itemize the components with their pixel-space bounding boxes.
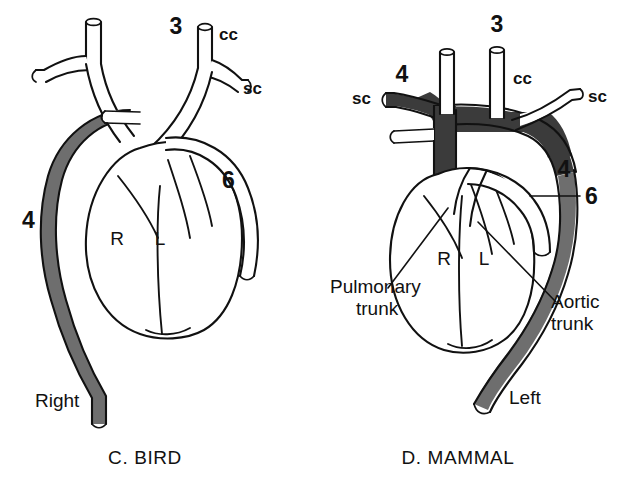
mammal-label-side: Left: [509, 387, 541, 408]
mammal-label-arch-6: 6: [585, 183, 598, 209]
mammal-chamber-left: L: [479, 248, 490, 269]
mammal-chamber-right: R: [437, 248, 451, 269]
mammal-label-arch-4-left: 4: [396, 61, 409, 87]
bird-label-arch-4: 4: [22, 207, 35, 233]
mammal-stub-vessel: [390, 128, 434, 143]
bird-label-cc: cc: [219, 25, 238, 44]
bird-chamber-left: L: [155, 228, 166, 249]
bird-panel-caption: C. BIRD: [108, 447, 182, 468]
mammal-label-sc-right: sc: [588, 87, 607, 106]
bird-label-arch-3: 3: [170, 13, 183, 39]
mammal-label-arch-4-right: 4: [558, 156, 571, 182]
mammal-label-pulmonary-trunk-line2: trunk: [356, 298, 399, 319]
bird-label-side: Right: [35, 390, 80, 411]
bird-chamber-right: R: [110, 228, 124, 249]
mammal-label-arch-3: 3: [491, 11, 504, 37]
mammal-label-aortic-trunk-line1: Aortic: [551, 291, 600, 312]
mammal-label-sc-left: sc: [352, 89, 371, 108]
mammal-label-aortic-trunk-line2: trunk: [551, 313, 594, 334]
bird-stub-vessel: [101, 110, 140, 124]
mammal-label-pulmonary-trunk-line1: Pulmonary: [330, 276, 421, 297]
bird-label-sc: sc: [243, 79, 262, 98]
bird-label-arch-6: 6: [222, 167, 235, 193]
figure-comparative-aortic-arches: 3 cc sc 6 4 R L Right C. BIRD: [0, 0, 637, 493]
mammal-panel-caption: D. MAMMAL: [401, 447, 514, 468]
mammal-label-cc: cc: [513, 69, 532, 88]
